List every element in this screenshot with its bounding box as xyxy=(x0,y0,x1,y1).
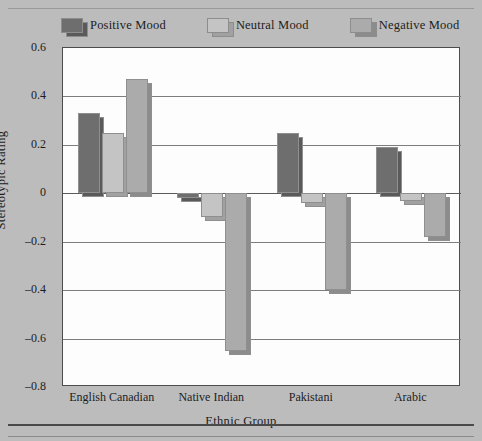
bar-face xyxy=(126,79,148,193)
bar xyxy=(225,193,247,350)
chart-legend: Positive MoodNeutral MoodNegative Mood xyxy=(62,14,462,36)
bar xyxy=(277,133,299,194)
legend-item[interactable]: Negative Mood xyxy=(351,18,460,33)
legend-swatch-face xyxy=(350,18,372,33)
x-tick-label: Pakistani xyxy=(289,390,333,405)
legend-label: Positive Mood xyxy=(90,18,166,33)
y-tick-label: –0.4 xyxy=(25,282,46,297)
figure-top-rule xyxy=(8,8,474,9)
bar-face xyxy=(201,193,223,217)
legend-swatch-icon xyxy=(351,19,371,32)
plot-wrapper xyxy=(62,47,460,386)
y-tick-label: 0 xyxy=(40,185,46,200)
bar xyxy=(201,193,223,217)
x-tick-label: Arabic xyxy=(394,390,427,405)
bar xyxy=(301,193,323,203)
bar-face xyxy=(301,193,323,203)
figure-bottom-rule-secondary xyxy=(8,436,474,437)
bar-face xyxy=(225,193,247,350)
gridline xyxy=(63,290,461,291)
bar xyxy=(177,193,199,198)
bar-face xyxy=(177,193,199,198)
gridline xyxy=(63,339,461,340)
bar xyxy=(376,147,398,193)
y-tick-label: –0.2 xyxy=(25,233,46,248)
legend-swatch-icon xyxy=(208,19,228,32)
y-tick-label: –0.6 xyxy=(25,330,46,345)
y-tick-label: 0.2 xyxy=(31,136,46,151)
figure-bottom-rule xyxy=(8,424,474,426)
x-tick-label: Native Indian xyxy=(178,390,244,405)
y-tick-label: 0.4 xyxy=(31,88,46,103)
legend-swatch-face xyxy=(207,18,229,33)
figure-canvas: Positive MoodNeutral MoodNegative Mood 0… xyxy=(0,0,482,441)
x-axis-ticks: English CanadianNative IndianPakistaniAr… xyxy=(62,390,460,408)
legend-swatch-face xyxy=(61,18,83,33)
legend-item[interactable]: Positive Mood xyxy=(62,18,166,33)
bar-face xyxy=(424,193,446,237)
bar-face xyxy=(325,193,347,290)
bar xyxy=(424,193,446,237)
x-axis-label: Ethnic Group xyxy=(0,414,482,429)
y-tick-label: –0.8 xyxy=(25,379,46,394)
legend-item[interactable]: Neutral Mood xyxy=(208,18,309,33)
plot-area xyxy=(62,47,460,386)
bar-face xyxy=(400,193,422,200)
bar-face xyxy=(277,133,299,194)
legend-swatch-icon xyxy=(62,19,82,32)
bar xyxy=(126,79,148,193)
gridline xyxy=(63,242,461,243)
legend-label: Negative Mood xyxy=(379,18,460,33)
y-axis-label: Stereotypic Rating xyxy=(0,131,9,230)
bar xyxy=(400,193,422,200)
bar xyxy=(102,133,124,194)
bar-face xyxy=(376,147,398,193)
bar xyxy=(78,113,100,193)
bar-face xyxy=(78,113,100,193)
y-tick-label: 0.6 xyxy=(31,40,46,55)
legend-label: Neutral Mood xyxy=(236,18,309,33)
x-tick-label: English Canadian xyxy=(69,390,154,405)
gridline xyxy=(63,96,461,97)
bar xyxy=(325,193,347,290)
bar-face xyxy=(102,133,124,194)
